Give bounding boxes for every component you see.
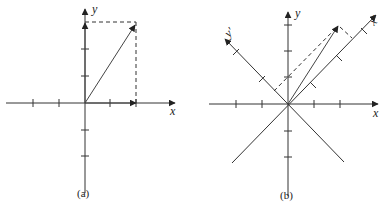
panel-caption: (b) [280, 189, 293, 202]
panel-b: x y x' y' (b) [209, 6, 382, 202]
vector-arrow [288, 26, 338, 104]
x-axis-label: x [372, 106, 379, 120]
x-prime-ticks [310, 28, 367, 88]
y-prime-ticks [233, 49, 265, 82]
y-axis-label: y [91, 2, 98, 16]
vector-arrow [85, 25, 135, 103]
x-prime-tick [310, 82, 316, 88]
x-prime-axis-label: x' [366, 12, 382, 28]
y-prime-axis [225, 39, 344, 162]
panel-caption: (a) [77, 187, 90, 200]
panel-a: x y (a) [6, 2, 176, 200]
x-axis-label: x [169, 104, 176, 118]
projection-dashed-line [340, 27, 352, 38]
projection-dashed-line [274, 26, 338, 91]
y-axis-label: y [294, 6, 301, 20]
x-prime-axis [232, 15, 376, 163]
figure-canvas: x y (a) [0, 0, 385, 207]
x-prime-tick [336, 55, 342, 61]
x-prime-tick [361, 28, 367, 34]
y-prime-axis-label: y' [221, 24, 237, 40]
